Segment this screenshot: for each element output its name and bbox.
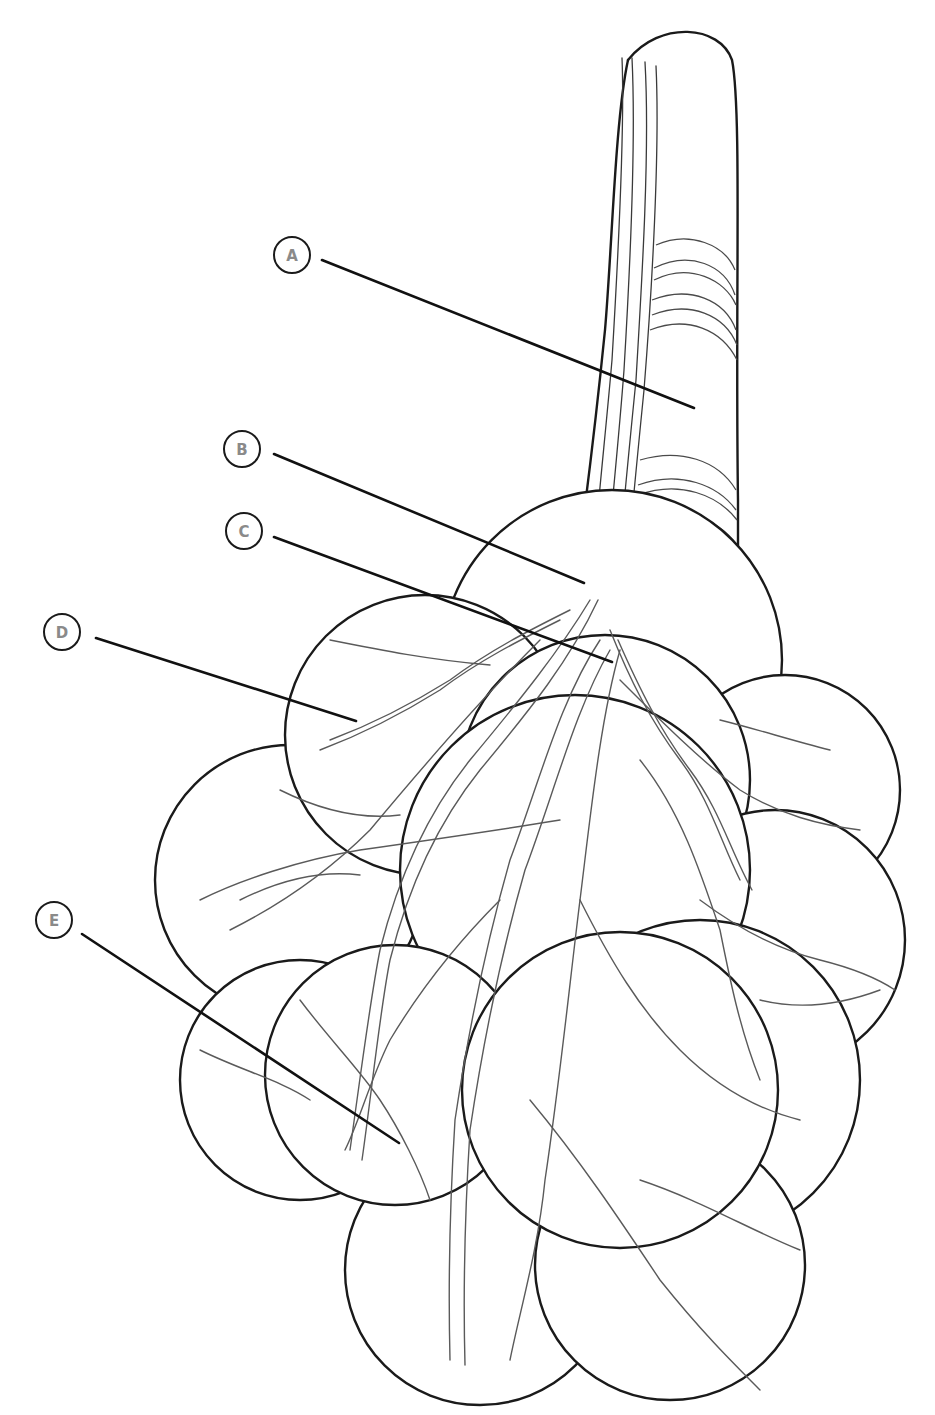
alveolar-sac-diagram: A B C D E — [0, 0, 935, 1415]
callout-a: A — [274, 237, 310, 273]
callout-b: B — [224, 431, 260, 467]
callout-d: D — [44, 614, 80, 650]
callout-label-a: A — [286, 247, 298, 265]
callout-label-e: E — [49, 912, 59, 930]
callout-label-d: D — [56, 624, 68, 642]
callout-c: C — [226, 513, 262, 549]
callout-label-b: B — [236, 441, 247, 459]
callout-e: E — [36, 902, 72, 938]
callout-label-c: C — [238, 523, 249, 541]
